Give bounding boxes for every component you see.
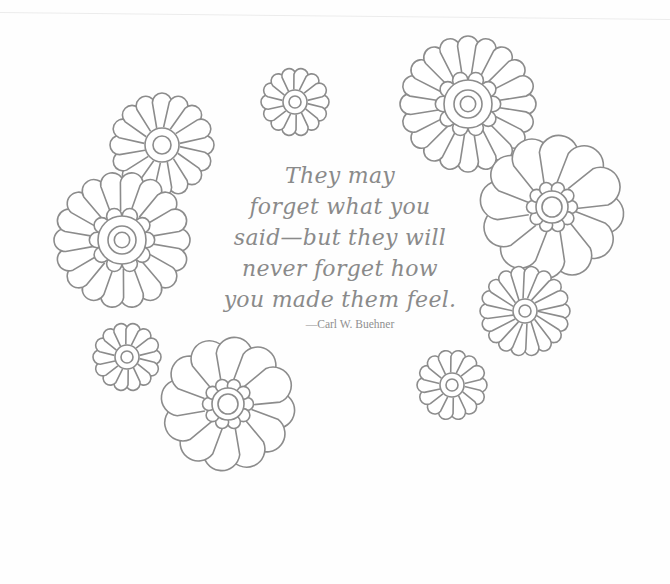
quote-line: said—but they will: [195, 222, 485, 253]
flower-small-bottom-right: [417, 351, 487, 420]
flower-daisy-right: [480, 267, 570, 356]
quote-line: you made them feel.: [195, 284, 485, 315]
quote-attribution: —Carl W. Buehner: [270, 318, 430, 330]
flower-small-bottom-left: [93, 324, 161, 391]
flower-broad-bottom-center: [161, 337, 294, 470]
flower-broad-right: [480, 135, 623, 278]
flower-small-top-center: [261, 69, 329, 136]
quote-text: They may forget what you said—but they w…: [195, 160, 485, 315]
flower-scalloped-left: [54, 173, 190, 307]
quote-line: forget what you: [195, 191, 485, 222]
quote-line: never forget how: [195, 253, 485, 284]
coloring-page: They may forget what you said—but they w…: [0, 0, 670, 584]
quote-line: They may: [195, 160, 485, 191]
